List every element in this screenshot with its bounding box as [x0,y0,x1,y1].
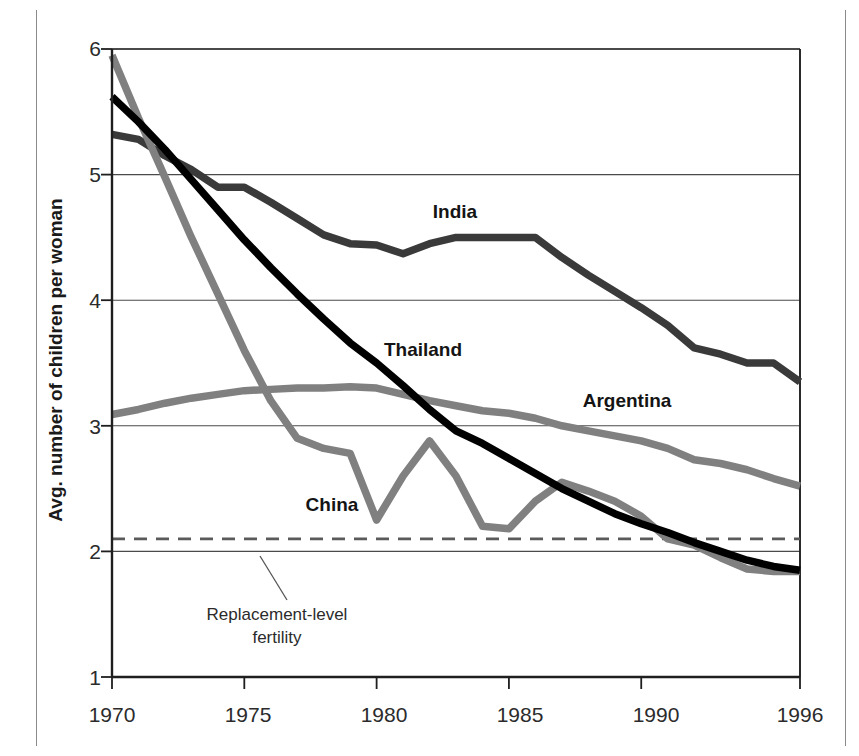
y-axis-title: Avg. number of children per woman [45,198,66,521]
replacement-leader-line [260,556,287,600]
y-tick-label-1: 1 [89,666,101,689]
replacement-annotation-line1: Replacement-level [207,605,348,624]
figure-container: 6 5 4 3 2 1 1970 1975 1980 1985 1990 199… [0,0,859,756]
x-tick-label-1990: 1990 [633,703,680,726]
data-series-group [112,55,800,571]
tick-marks-group [101,49,800,689]
series-label-argentina: Argentina [583,390,672,411]
y-tick-label-5: 5 [89,163,101,186]
series-line-thailand [112,97,800,571]
y-tick-label-2: 2 [89,540,101,563]
x-tick-label-1985: 1985 [497,703,544,726]
x-tick-label-1996: 1996 [777,703,824,726]
y-tick-label-6: 6 [89,37,101,60]
replacement-annotation-line2: fertility [252,628,302,647]
series-label-china: China [306,494,359,515]
y-tick-label-4: 4 [89,289,101,312]
series-line-china [112,55,800,571]
x-tick-label-1975: 1975 [225,703,272,726]
series-label-india: India [433,201,478,222]
series-label-thailand: Thailand [384,339,462,360]
line-chart: 6 5 4 3 2 1 1970 1975 1980 1985 1990 199… [0,0,859,756]
axes-group [112,49,800,677]
y-tick-label-3: 3 [89,415,101,438]
x-tick-label-1980: 1980 [361,703,408,726]
chart-plot-area: 6 5 4 3 2 1 1970 1975 1980 1985 1990 199… [0,0,859,756]
x-tick-label-1970: 1970 [89,703,136,726]
